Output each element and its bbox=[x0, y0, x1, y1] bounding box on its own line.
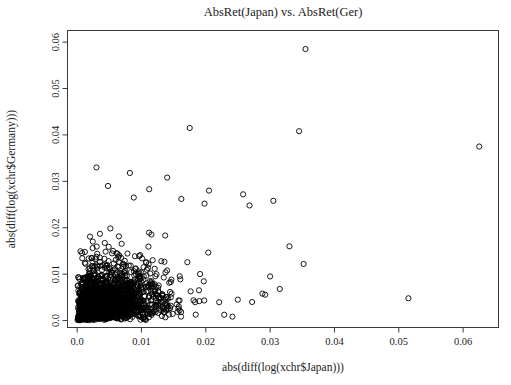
x-tick-label: 0.0 bbox=[71, 336, 84, 347]
y-tick-label: 0.01 bbox=[50, 265, 61, 283]
x-tick-label: 0.04 bbox=[325, 336, 344, 347]
x-tick-label: 0.03 bbox=[261, 336, 279, 347]
chart-canvas: AbsRet(Japan) vs. AbsRet(Ger) 0.00.010.0… bbox=[0, 0, 511, 385]
y-axis-label: abs(diff(log(xchr$Germany))) bbox=[5, 110, 18, 249]
x-axis-label: abs(diff(log(xchr$Japan))) bbox=[222, 361, 344, 374]
x-tick-label: 0.01 bbox=[132, 336, 150, 347]
scatter-plot-figure: AbsRet(Japan) vs. AbsRet(Ger) 0.00.010.0… bbox=[0, 0, 511, 385]
x-tick-label: 0.06 bbox=[454, 336, 472, 347]
y-tick-label: 0.02 bbox=[50, 219, 61, 237]
y-tick-label: 0.04 bbox=[50, 125, 61, 144]
y-tick-label: 0.05 bbox=[50, 79, 61, 97]
y-tick-label: 0.0 bbox=[50, 314, 61, 327]
y-tick-label: 0.03 bbox=[50, 172, 61, 190]
y-tick-label: 0.06 bbox=[50, 33, 61, 51]
x-tick-label: 0.02 bbox=[197, 336, 215, 347]
x-tick-label: 0.05 bbox=[390, 336, 408, 347]
chart-title: AbsRet(Japan) vs. AbsRet(Ger) bbox=[204, 5, 363, 19]
